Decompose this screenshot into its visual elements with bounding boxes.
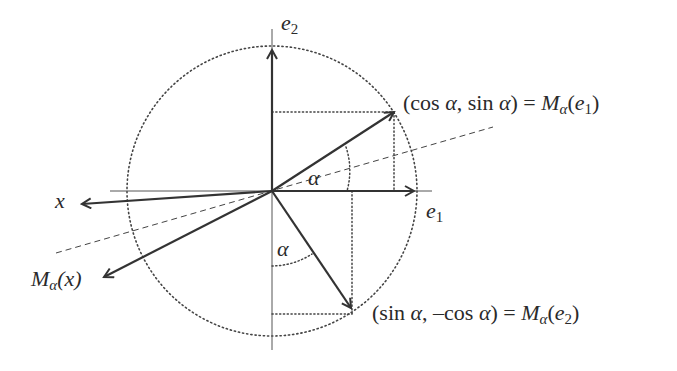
e-symbol: e [555, 300, 565, 325]
label-m-alpha-x-sub: α [49, 277, 57, 293]
e-subscript: 1 [584, 101, 591, 117]
e-subscript: 2 [564, 311, 571, 327]
vector-m-alpha-e1 [272, 112, 394, 191]
text: ) [572, 300, 579, 325]
alpha-symbol: α [479, 300, 491, 325]
label-point-e2: (sin α, –cos α) = Mα(e2) [372, 302, 579, 327]
vector-x [82, 191, 272, 204]
m-symbol: M [521, 300, 539, 325]
text: ) = [490, 300, 521, 325]
text: ( [547, 300, 554, 325]
label-m-alpha-x-arg: (x) [57, 266, 81, 291]
vector-m-alpha-x [104, 191, 272, 277]
label-e2: e2 [281, 12, 298, 37]
label-alpha-upper: α [308, 167, 320, 189]
text: , –cos [422, 300, 479, 325]
alpha-symbol: α [411, 300, 423, 325]
reflection-diagram: e2 e1 x α α Mα(x) (cos α, sin α) = Mα(e1… [0, 0, 677, 371]
text: (cos [403, 90, 445, 115]
label-alpha-lower: α [277, 238, 289, 260]
label-e1-sub: 1 [436, 209, 443, 225]
alpha-symbol: α [499, 90, 511, 115]
m-symbol: M [541, 90, 559, 115]
label-m-alpha-x: Mα(x) [31, 268, 82, 293]
label-point-e1: (cos α, sin α) = Mα(e1) [403, 92, 599, 117]
label-m-alpha-x-base: M [31, 266, 49, 291]
label-e1: e1 [426, 200, 443, 225]
alpha-symbol: α [445, 90, 457, 115]
text: ) [592, 90, 599, 115]
label-e2-sub: 2 [291, 21, 298, 37]
label-e1-base: e [426, 198, 436, 223]
text: (sin [372, 300, 411, 325]
text: , sin [457, 90, 499, 115]
text: ) = [510, 90, 541, 115]
text: ( [567, 90, 574, 115]
label-x: x [55, 190, 65, 212]
label-e2-base: e [281, 10, 291, 35]
